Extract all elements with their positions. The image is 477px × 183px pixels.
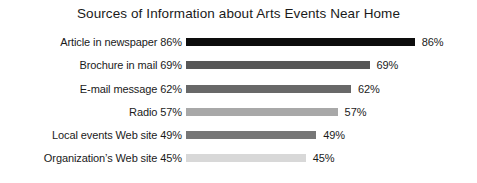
- chart-title: Sources of Information about Arts Events…: [0, 6, 477, 21]
- bar-row: Article in newspaper 86%86%: [0, 31, 477, 53]
- bar: [186, 108, 338, 116]
- bar-track: 86%: [186, 31, 477, 53]
- bar-value-label: 62%: [351, 83, 380, 95]
- bar-row: E-mail message 62%62%: [0, 77, 477, 99]
- bar-value-label: 45%: [306, 152, 335, 164]
- bar: [186, 154, 306, 162]
- bar: [186, 85, 351, 93]
- bar: [186, 131, 316, 139]
- bar-value-label: 69%: [370, 59, 399, 71]
- bar: [186, 61, 370, 69]
- bar-chart: Sources of Information about Arts Events…: [0, 0, 477, 183]
- bar-category-label: Local events Web site 49%: [0, 129, 186, 141]
- bar-row: Organization’s Web site 45%45%: [0, 147, 477, 169]
- plot-area: Article in newspaper 86%86%Brochure in m…: [0, 31, 477, 183]
- bar-track: 62%: [186, 77, 477, 99]
- bar-category-label: Radio 57%: [0, 106, 186, 118]
- bar-row: Radio 57%57%: [0, 101, 477, 123]
- bar-category-label: E-mail message 62%: [0, 83, 186, 95]
- bar-track: 69%: [186, 54, 477, 76]
- bar-row: Brochure in mail 69%69%: [0, 54, 477, 76]
- bar-row: Local events Web site 49%49%: [0, 124, 477, 146]
- bar-track: 45%: [186, 147, 477, 169]
- bar-value-label: 49%: [316, 129, 345, 141]
- bar-category-label: Brochure in mail 69%: [0, 59, 186, 71]
- bar-track: 57%: [186, 101, 477, 123]
- bar-value-label: 57%: [338, 106, 367, 118]
- bar-value-label: 86%: [415, 36, 444, 48]
- bar: [186, 38, 415, 46]
- bar-category-label: Article in newspaper 86%: [0, 36, 186, 48]
- bar-track: 49%: [186, 124, 477, 146]
- bar-category-label: Organization’s Web site 45%: [0, 152, 186, 164]
